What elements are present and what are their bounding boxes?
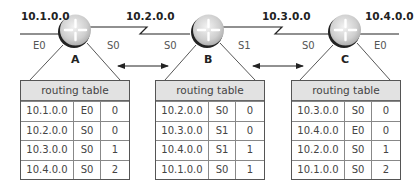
network-label-2: 10.2.0.0: [126, 10, 175, 22]
network-cell: 10.4.0.0: [292, 122, 345, 141]
network-label-4: 10.4.0.0: [365, 10, 414, 22]
routing-table-title: routing table: [292, 81, 400, 101]
network-cell: 10.2.0.0: [21, 122, 74, 141]
interface-label-c-right: E0: [374, 40, 387, 51]
network-cell: 10.1.0.0: [21, 102, 74, 121]
table-row: 10.1.0.0 S0 1: [156, 160, 264, 180]
table-row: 10.2.0.0 S0 0: [21, 121, 129, 141]
table-row: 10.2.0.0 S0 1: [292, 140, 400, 160]
serial-link-a-b: [87, 27, 190, 34]
interface-label-b-left: S0: [164, 40, 177, 51]
network-cell: 10.3.0.0: [21, 141, 74, 160]
interface-cell: E0: [345, 122, 372, 141]
router-name-a: A: [71, 53, 80, 66]
network-cell: 10.2.0.0: [292, 141, 345, 160]
interface-cell: S0: [345, 141, 372, 160]
hops-cell: 0: [236, 102, 264, 121]
interface-label-b-right: S1: [238, 40, 251, 51]
table-row: 10.2.0.0 S0 0: [156, 101, 264, 121]
hops-cell: 0: [101, 102, 129, 121]
network-cell: 10.3.0.0: [156, 122, 209, 141]
routing-table-title: routing table: [21, 81, 129, 101]
network-label-1: 10.1.0.0: [21, 10, 70, 22]
table-row: 10.4.0.0 S1 1: [156, 140, 264, 160]
interface-cell: S1: [209, 141, 236, 160]
hops-cell: 0: [236, 122, 264, 141]
hops-cell: 2: [372, 161, 400, 180]
hops-cell: 0: [101, 122, 129, 141]
routing-table-b: routing table 10.2.0.0 S0 0 10.3.0.0 S1 …: [155, 80, 265, 180]
router-name-c: C: [341, 53, 349, 66]
interface-cell: S0: [345, 102, 372, 121]
interface-label-a-left: E0: [33, 40, 46, 51]
hops-cell: 2: [101, 161, 129, 180]
network-cell: 10.4.0.0: [21, 161, 74, 180]
network-cell: 10.1.0.0: [292, 161, 345, 180]
table-row: 10.1.0.0 S0 2: [292, 160, 400, 180]
router-c-icon: [328, 15, 361, 49]
hops-cell: 0: [372, 122, 400, 141]
interface-cell: S0: [209, 102, 236, 121]
table-row: 10.4.0.0 E0 0: [292, 121, 400, 141]
interface-cell: S1: [209, 122, 236, 141]
hops-cell: 1: [101, 141, 129, 160]
interface-cell: S0: [345, 161, 372, 180]
hops-cell: 1: [236, 161, 264, 180]
hops-cell: 1: [372, 141, 400, 160]
hops-cell: 1: [236, 141, 264, 160]
interface-cell: S0: [74, 122, 101, 141]
network-cell: 10.2.0.0: [156, 102, 209, 121]
routing-table-title: routing table: [156, 81, 264, 101]
network-cell: 10.4.0.0: [156, 141, 209, 160]
interface-label-a-right: S0: [107, 40, 120, 51]
network-cell: 10.1.0.0: [156, 161, 209, 180]
routing-table-c: routing table 10.3.0.0 S0 0 10.4.0.0 E0 …: [291, 80, 401, 180]
table-row: 10.3.0.0 S0 0: [292, 101, 400, 121]
network-cell: 10.3.0.0: [292, 102, 345, 121]
routing-table-a: routing table 10.1.0.0 E0 0 10.2.0.0 S0 …: [20, 80, 130, 180]
router-b-icon: [191, 15, 224, 49]
interface-cell: S0: [209, 161, 236, 180]
interface-label-c-left: S0: [302, 40, 315, 51]
hops-cell: 0: [372, 102, 400, 121]
serial-link-b-c: [222, 27, 330, 34]
table-row: 10.3.0.0 S1 0: [156, 121, 264, 141]
network-label-3: 10.3.0.0: [262, 10, 311, 22]
interface-cell: S0: [74, 161, 101, 180]
table-row: 10.3.0.0 S0 1: [21, 140, 129, 160]
table-row: 10.1.0.0 E0 0: [21, 101, 129, 121]
interface-cell: S0: [74, 141, 101, 160]
interface-cell: E0: [74, 102, 101, 121]
router-name-b: B: [204, 53, 212, 66]
table-row: 10.4.0.0 S0 2: [21, 160, 129, 180]
